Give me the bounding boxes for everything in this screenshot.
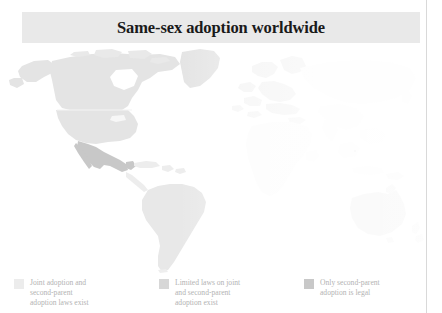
world-map-svg: [0, 48, 426, 273]
world-map-container: [0, 48, 426, 273]
legend-item-label: Limited laws on joint and second-parent …: [175, 278, 240, 309]
map-fade-overlay: [0, 48, 426, 273]
legend-item-joint-adoption[interactable]: Joint adoption and second-parent adoptio…: [14, 278, 159, 309]
legend-item-second-parent-only[interactable]: Only second-parent adoption is legal: [304, 278, 426, 298]
legend-item-label: Only second-parent adoption is legal: [320, 278, 380, 298]
title-bar: Same-sex adoption worldwide: [22, 12, 420, 43]
legend-swatch-icon: [159, 279, 169, 289]
legend-swatch-icon: [14, 279, 24, 289]
infographic-root: Same-sex adoption worldwide: [0, 0, 442, 313]
map-legend: Joint adoption and second-parent adoptio…: [14, 278, 426, 310]
right-divider: [426, 0, 427, 313]
legend-item-limited-laws[interactable]: Limited laws on joint and second-parent …: [159, 278, 304, 309]
legend-item-label: Joint adoption and second-parent adoptio…: [30, 278, 89, 309]
legend-swatch-icon: [304, 279, 314, 289]
page-title: Same-sex adoption worldwide: [117, 18, 325, 38]
